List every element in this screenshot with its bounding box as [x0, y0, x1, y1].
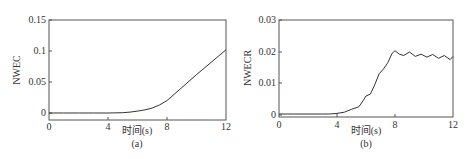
x-tick-label: 12 — [221, 121, 231, 132]
x-tick-label: 8 — [165, 121, 170, 132]
x-tick-label: 0 — [277, 119, 282, 130]
caption-b: (b) — [360, 138, 372, 150]
x-tick-label: 0 — [47, 121, 52, 132]
x-tick-label: 12 — [448, 119, 458, 130]
y-ticks-a: 0.15 0.1 0.05 0 — [29, 14, 53, 118]
data-line-a — [49, 50, 226, 113]
y-tick-label: 0.03 — [259, 14, 277, 25]
y-axis-title-a: NWEC — [11, 55, 22, 85]
y-tick-label: 0.02 — [259, 46, 277, 57]
y-tick-label: 0.01 — [259, 77, 277, 88]
data-line-b — [279, 51, 453, 114]
y-axis-title-b: NWECR — [242, 50, 253, 86]
plot-frame-a — [49, 20, 226, 120]
y-tick-label: 0.1 — [34, 45, 47, 56]
plot-frame-b — [279, 20, 453, 117]
y-ticks-b: 0.03 0.02 0.01 0 — [259, 14, 283, 120]
chart-a: 0.15 0.1 0.05 0 0 4 8 12 NWEC 时间(s) (a) — [11, 14, 231, 150]
caption-a: (a) — [131, 138, 142, 150]
figure: 0.15 0.1 0.05 0 0 4 8 12 NWEC 时间(s) (a) … — [0, 0, 471, 159]
y-tick-label: 0 — [271, 109, 276, 120]
x-axis-title-b: 时间(s) — [351, 124, 382, 137]
x-tick-label: 4 — [106, 121, 111, 132]
x-axis-title-a: 时间(s) — [122, 124, 153, 137]
x-tick-label: 4 — [335, 119, 340, 130]
y-tick-label: 0.05 — [29, 76, 47, 87]
y-tick-label: 0.15 — [29, 14, 47, 25]
x-tick-label: 8 — [393, 119, 398, 130]
y-tick-label: 0 — [41, 107, 46, 118]
chart-b: 0.03 0.02 0.01 0 0 4 8 12 NWECR 时间(s) (b… — [242, 14, 458, 150]
